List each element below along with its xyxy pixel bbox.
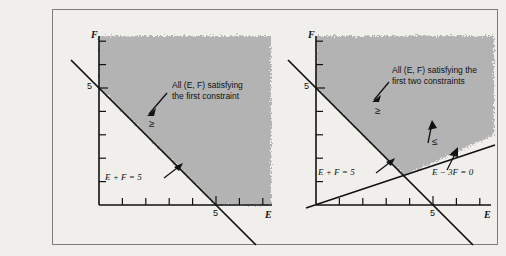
- right-chart-svg: [276, 10, 499, 246]
- right-y-tick-5: 5: [304, 81, 309, 91]
- right-region-annotation-line1: All (E, F) satisfying the: [392, 65, 477, 76]
- left-equation-label: E + F = 5: [105, 172, 142, 182]
- right-equation1-arrow: [376, 158, 395, 173]
- left-x-axis-label: E: [265, 209, 272, 220]
- right-y-axis-label: F: [308, 29, 315, 40]
- figure-frame: F E 5 5 All (E, F) satisfying the first …: [52, 9, 498, 245]
- left-y-axis-label: F: [91, 29, 98, 40]
- left-ge-symbol: ≥: [149, 118, 155, 129]
- right-x-axis-label: E: [484, 209, 491, 220]
- panel-left-chart: F E 5 5 All (E, F) satisfying the first …: [53, 10, 276, 246]
- caption-text: DECISION ANALYSIS: [95, 0, 182, 2]
- panel-right-chart: F E 5 5 All (E, F) satisfying the first …: [276, 10, 499, 246]
- left-region-annotation-line2: the first constraint: [172, 91, 243, 102]
- right-le-symbol: ≤: [432, 136, 438, 147]
- right-ge-symbol: ≥: [375, 105, 381, 116]
- right-region-annotation: All (E, F) satisfying the first two cons…: [392, 65, 477, 86]
- left-y-tick-5: 5: [87, 81, 92, 91]
- left-region-annotation-line1: All (E, F) satisfying: [172, 80, 243, 91]
- left-equation-arrow: [164, 163, 183, 178]
- right-equation1-label: E + F = 5: [318, 167, 355, 177]
- plot-area-right: [276, 10, 499, 246]
- right-x-ticks: [339, 196, 479, 205]
- caption-strip: DECISION ANALYSIS: [0, 0, 506, 7]
- right-region-annotation-line2: first two constraints: [392, 76, 477, 87]
- right-x-tick-5: 5: [430, 208, 435, 218]
- figure-root: DECISION ANALYSIS: [0, 0, 506, 256]
- left-region-annotation: All (E, F) satisfying the first constrai…: [172, 80, 243, 101]
- left-chart-svg: [53, 10, 276, 246]
- plot-area-left: [53, 10, 276, 246]
- right-equation2-label: E − 3F = 0: [432, 167, 473, 177]
- left-x-tick-5: 5: [213, 208, 218, 218]
